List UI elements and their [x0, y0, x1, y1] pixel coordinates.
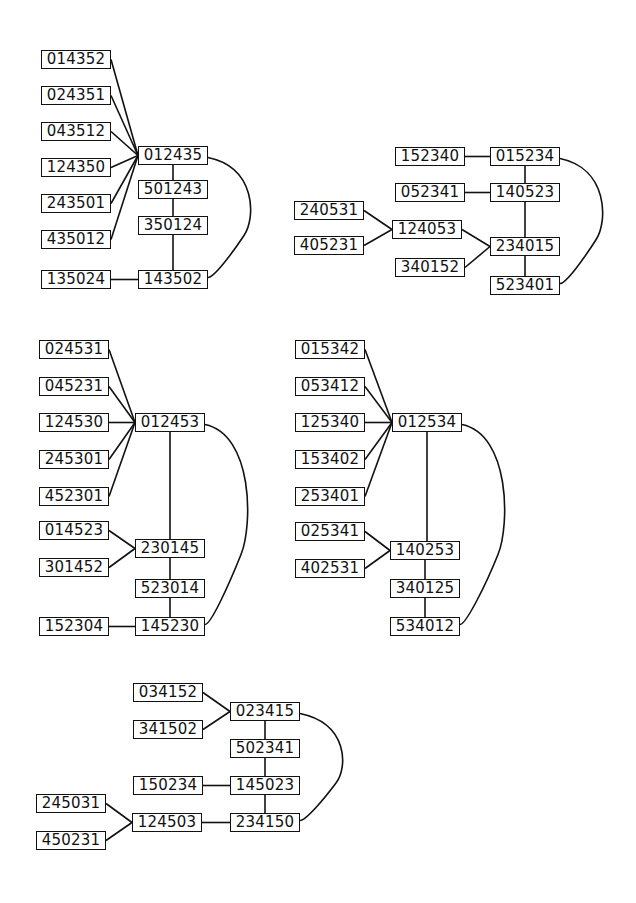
permutation-node: 143502	[138, 270, 208, 289]
permutation-node: 153402	[295, 450, 365, 469]
permutation-node: 124350	[41, 158, 111, 177]
permutation-node: 145230	[135, 617, 205, 636]
permutation-node: 234015	[490, 237, 560, 256]
permutation-node: 152304	[39, 617, 109, 636]
permutation-node: 014352	[41, 50, 111, 69]
graph-edge	[111, 96, 138, 156]
permutation-node: 243501	[41, 194, 111, 213]
permutation-node: 024531	[39, 340, 109, 359]
graph-edge	[365, 350, 392, 423]
graph-edge	[203, 693, 230, 712]
permutation-node: 015342	[295, 340, 365, 359]
permutation-node: 523401	[490, 276, 560, 295]
permutation-node: 012453	[135, 413, 205, 432]
permutation-node: 240531	[294, 201, 364, 220]
permutation-node: 534012	[390, 617, 460, 636]
permutation-node: 435012	[41, 230, 111, 249]
graph-edge	[364, 230, 392, 246]
permutation-node: 124053	[392, 220, 462, 239]
permutation-node: 043512	[41, 122, 111, 141]
graph-edge	[106, 804, 132, 823]
permutation-node: 140523	[490, 183, 560, 202]
graph-edge	[111, 60, 138, 156]
permutation-node: 341502	[133, 720, 203, 739]
permutation-node: 452301	[39, 487, 109, 506]
permutation-node: 340152	[395, 258, 465, 277]
permutation-node: 350124	[138, 216, 208, 235]
graph-edge	[109, 531, 135, 549]
permutation-node: 245301	[39, 450, 109, 469]
graph-arc	[300, 714, 343, 821]
permutation-node: 301452	[39, 558, 109, 577]
permutation-node: 405231	[294, 236, 364, 255]
permutation-node: 152340	[395, 147, 465, 166]
graph-edge	[365, 387, 392, 423]
permutation-node: 053412	[295, 377, 365, 396]
graph-arc	[208, 158, 251, 278]
graph-arc	[560, 159, 603, 284]
permutation-node: 124530	[39, 413, 109, 432]
permutation-node: 124503	[132, 813, 202, 832]
permutation-node: 340125	[390, 579, 460, 598]
graph-figure: 0143520243510435121243502435014350121350…	[0, 0, 636, 903]
permutation-node: 501243	[138, 180, 208, 199]
permutation-node: 450231	[36, 831, 106, 850]
permutation-node: 135024	[41, 270, 111, 289]
permutation-node: 034152	[133, 683, 203, 702]
permutation-node: 253401	[295, 487, 365, 506]
graph-edge	[203, 712, 230, 730]
permutation-node: 150234	[133, 776, 203, 795]
permutation-node: 012534	[392, 413, 462, 432]
permutation-node: 052341	[395, 183, 465, 202]
permutation-node: 234150	[230, 813, 300, 832]
permutation-node: 523014	[135, 579, 205, 598]
graph-edge	[365, 532, 390, 551]
permutation-node: 012435	[138, 146, 208, 165]
graph-arc	[460, 425, 505, 625]
graph-edge	[462, 230, 490, 247]
permutation-node: 015234	[490, 147, 560, 166]
graph-edge	[106, 823, 132, 841]
permutation-node: 024351	[41, 86, 111, 105]
graph-edge	[109, 423, 135, 460]
permutation-node: 245031	[36, 794, 106, 813]
permutation-node: 014523	[39, 521, 109, 540]
graph-edge	[365, 551, 390, 569]
graph-edge	[364, 211, 392, 230]
permutation-node: 025341	[295, 522, 365, 541]
graph-edge	[109, 423, 135, 497]
graph-edge	[365, 423, 392, 460]
graph-edge	[109, 350, 135, 423]
permutation-node: 230145	[135, 539, 205, 558]
permutation-node: 045231	[39, 377, 109, 396]
graph-edge	[109, 549, 135, 568]
permutation-node: 145023	[230, 776, 300, 795]
graph-arc	[205, 425, 248, 625]
permutation-node: 125340	[295, 413, 365, 432]
permutation-node: 502341	[230, 739, 300, 758]
permutation-node: 402531	[295, 559, 365, 578]
permutation-node: 023415	[230, 702, 300, 721]
graph-edge	[365, 423, 392, 497]
permutation-node: 140253	[390, 541, 460, 560]
graph-edge	[109, 387, 135, 423]
graph-edge	[465, 247, 490, 268]
